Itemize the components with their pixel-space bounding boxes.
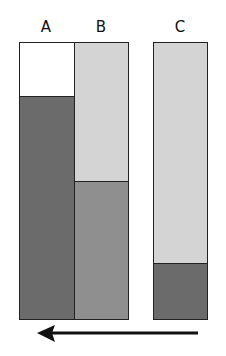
left-arrow-icon [0, 0, 226, 356]
